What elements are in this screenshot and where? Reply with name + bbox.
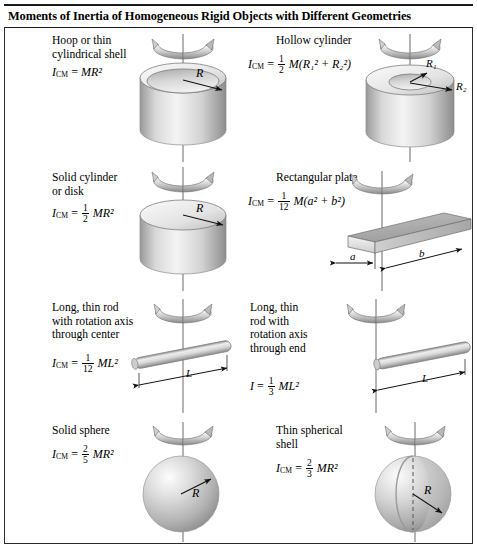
solid-cylinder-denominator: 2 (82, 213, 89, 224)
thin-spherical-shell-caption: Thin spherical shell (276, 424, 343, 451)
thin-spherical-shell-denominator: 3 (306, 468, 313, 479)
rod-center-equals: = (71, 356, 78, 370)
rod-center-body (131, 340, 232, 370)
solid-sphere-expression: MR² (93, 447, 114, 461)
solid-cylinder-illustration: R (128, 163, 238, 293)
rod-end-caption: Long, thin rod with rotation axis throug… (250, 301, 308, 355)
hoop-subscript: CM (56, 70, 68, 79)
hollow-cylinder-denominator: 2 (278, 64, 285, 75)
solid-sphere-equals: = (71, 447, 78, 461)
rod-end-expression: ML² (279, 379, 299, 393)
solid-sphere-denominator: 5 (82, 454, 89, 465)
rod-center-denominator: 12 (82, 363, 94, 374)
rectangular-plate-fraction: 1 12 (278, 191, 290, 212)
object-rectangular-plate: Rectangular plate ICM = 1 12 M(a² + b²) (238, 163, 477, 293)
rod-center-expression: ML² (98, 356, 118, 370)
object-solid-cylinder: Solid cylinder or disk ICM = 1 2 MR² R (0, 163, 238, 293)
hollow-cylinder-formula: ICM = 1 2 M(R₁² + R₂²) (248, 54, 351, 75)
object-hoop: Hoop or thin cylindrical shell ICM = MR² (0, 30, 238, 165)
rod-end-fraction: 1 3 (268, 376, 275, 397)
hoop-expression: MR² (81, 65, 102, 79)
solid-cylinder-expression: MR² (93, 206, 114, 220)
solid-sphere-caption: Solid sphere (52, 424, 110, 438)
rod-end-numerator: 1 (268, 376, 275, 386)
page-title: Moments of Inertia of Homogeneous Rigid … (4, 6, 473, 27)
solid-sphere-fraction: 2 5 (82, 444, 89, 465)
hoop-illustration: R (128, 30, 238, 165)
figure-title-block: Moments of Inertia of Homogeneous Rigid … (4, 4, 473, 28)
rod-center-numerator: 1 (82, 353, 94, 363)
rectangular-plate-equals: = (267, 194, 274, 208)
thin-spherical-shell-subscript: CM (280, 466, 292, 475)
hoop-radius-label: R (195, 66, 204, 80)
rod-end-denominator: 3 (268, 386, 275, 397)
rectangular-plate-illustration: b a (316, 163, 477, 293)
rod-end-label-L: L (421, 372, 428, 384)
rectangular-plate-subscript: CM (252, 199, 264, 208)
solid-sphere-illustration: R (128, 418, 238, 546)
solid-cylinder-fraction: 1 2 (82, 203, 89, 224)
rod-center-fraction: 1 12 (82, 353, 94, 374)
object-rod-center: Long, thin rod with rotation axis throug… (0, 293, 238, 418)
thin-spherical-shell-illustration: R (360, 418, 477, 546)
rectangular-plate-denominator: 12 (278, 201, 290, 212)
hoop-inner-cavity (147, 69, 219, 93)
thin-spherical-shell-expression: MR² (317, 461, 338, 475)
hollow-cylinder-outer-radius-label: R₂ (455, 80, 467, 92)
solid-cylinder-caption: Solid cylinder or disk (52, 171, 117, 198)
rod-end-symbol: I (250, 379, 254, 393)
rod-end-formula: I = 1 3 ML² (250, 376, 299, 397)
hoop-formula: ICM = MR² (52, 65, 102, 82)
rod-end-equals: = (257, 379, 264, 393)
rod-center-label-L: L (185, 367, 192, 379)
solid-cylinder-formula: ICM = 1 2 MR² (52, 203, 114, 224)
rectangular-plate-numerator: 1 (278, 191, 290, 201)
hollow-cylinder-numerator: 1 (278, 54, 285, 64)
solid-sphere-subscript: CM (56, 452, 68, 461)
hoop-equals: = (71, 65, 78, 79)
solid-cylinder-subscript: CM (56, 211, 68, 220)
solid-sphere-formula: ICM = 2 5 MR² (52, 444, 114, 465)
solid-cylinder-numerator: 1 (82, 203, 89, 213)
thin-spherical-shell-radius-label: R (423, 483, 432, 497)
object-rod-end: Long, thin rod with rotation axis throug… (238, 293, 477, 418)
hollow-cylinder-inner-radius-label: R₁ (425, 57, 437, 69)
hollow-cylinder-subscript: CM (252, 62, 264, 71)
hollow-cylinder-illustration: R₁ R₂ (348, 30, 477, 165)
thin-spherical-shell-fraction: 2 3 (306, 458, 313, 479)
hollow-cylinder-equals: = (267, 57, 274, 71)
solid-cylinder-radius-label: R (195, 201, 204, 215)
rod-end-body (373, 341, 471, 370)
solid-sphere-radius-label: R (191, 486, 200, 500)
hollow-cylinder-fraction: 1 2 (278, 54, 285, 75)
rod-end-illustration: L (338, 293, 477, 418)
thin-spherical-shell-equals: = (295, 461, 302, 475)
figure-page: Moments of Inertia of Homogeneous Rigid … (0, 0, 477, 548)
rod-center-caption: Long, thin rod with rotation axis throug… (52, 301, 133, 342)
solid-sphere-numerator: 2 (82, 444, 89, 454)
thin-spherical-shell-formula: ICM = 2 3 MR² (276, 458, 338, 479)
object-solid-sphere: Solid sphere ICM = 2 5 MR² R (0, 418, 238, 546)
rod-center-subscript: CM (56, 361, 68, 370)
hollow-cylinder-caption: Hollow cylinder (276, 34, 352, 48)
object-hollow-cylinder: Hollow cylinder ICM = 1 2 M(R₁² + R₂²) (238, 30, 477, 165)
rectangular-plate-label-a: a (350, 250, 356, 262)
object-thin-spherical-shell: Thin spherical shell ICM = 2 3 MR² (238, 418, 477, 546)
rod-center-formula: ICM = 1 12 ML² (52, 353, 118, 374)
rod-center-illustration: L (128, 293, 238, 418)
hoop-caption: Hoop or thin cylindrical shell (52, 34, 126, 61)
thin-spherical-shell-numerator: 2 (306, 458, 313, 468)
rectangular-plate-label-b: b (419, 247, 425, 259)
hollow-cylinder-expression: M(R₁² + R₂²) (289, 57, 351, 71)
solid-cylinder-equals: = (71, 206, 78, 220)
